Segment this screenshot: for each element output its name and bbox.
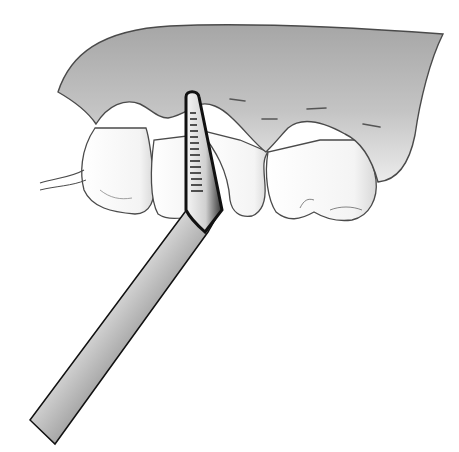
lip-outline: [40, 170, 84, 183]
dash-mark: [307, 108, 326, 109]
tooth-molar: [266, 140, 376, 221]
tooth-canine-left: [82, 128, 155, 214]
probe-shaft: [30, 196, 222, 444]
dental-illustration: [0, 0, 459, 452]
